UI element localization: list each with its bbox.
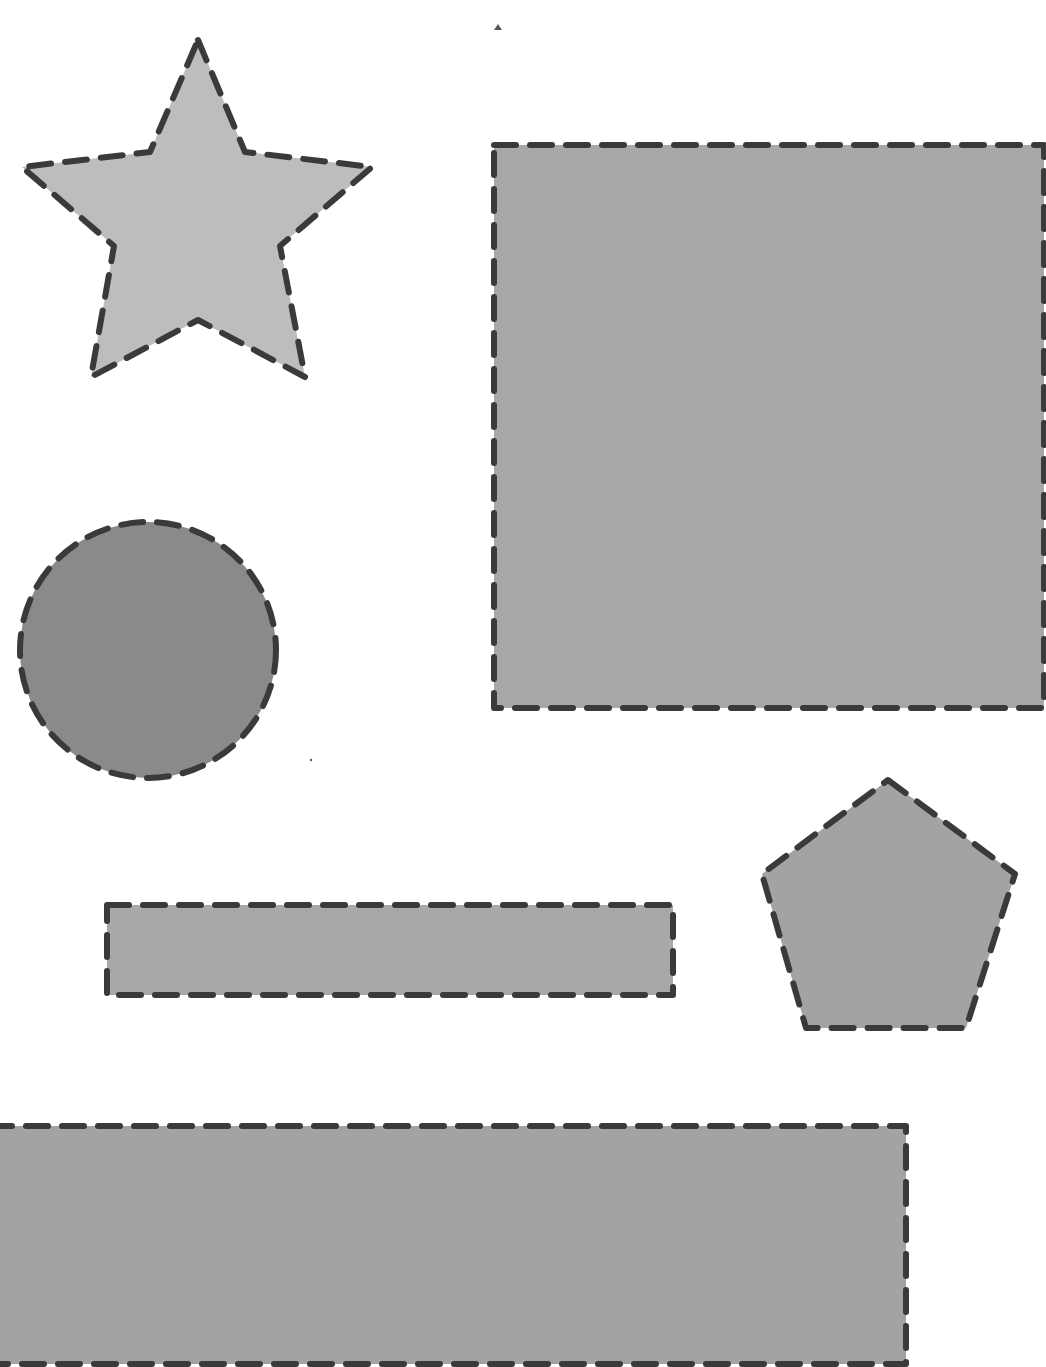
pentagon-shape [762,780,1015,1028]
small-triangle-mark [494,24,502,30]
circle-shape [20,522,276,778]
star-shape [22,40,372,377]
thin-rectangle-shape [107,905,673,995]
shapes-canvas [0,0,1046,1367]
large-square-shape [494,145,1044,708]
wide-rectangle-shape [0,1126,906,1364]
dot-mark [310,759,312,761]
